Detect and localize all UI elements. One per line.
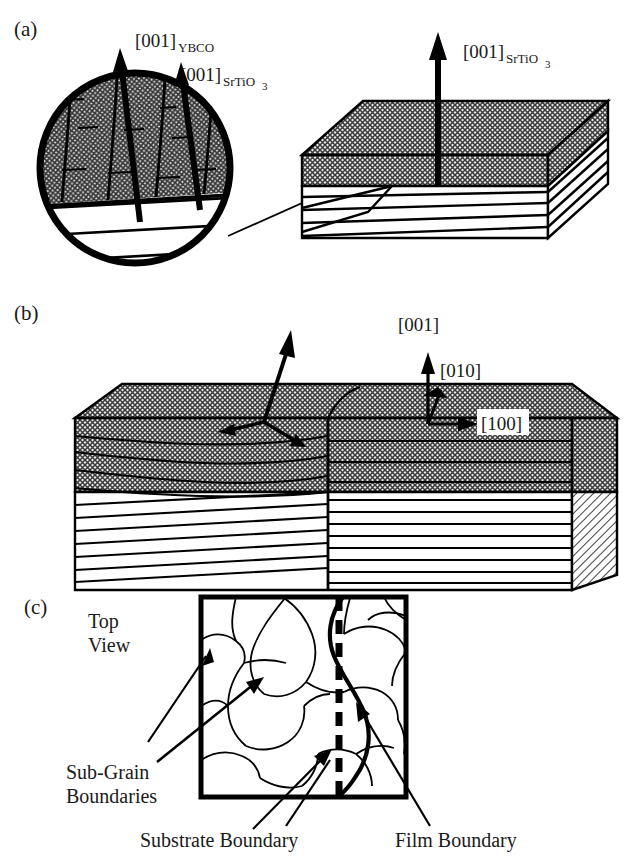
slab-a-film-front	[302, 155, 548, 186]
axis-001-label: [001]	[398, 314, 439, 335]
axis-100-label-group: [100]	[477, 409, 529, 435]
sub-grain-boundaries-label-line1: Sub-Grain	[66, 761, 149, 783]
top-view-label-line1: Top	[88, 610, 119, 633]
substrate-subscript-right-text: SrTiO	[506, 51, 538, 66]
figure-canvas: (a) [001] YBCO [001] SrTiO 3	[0, 0, 627, 856]
substrate-direction-right-text: [001]	[463, 41, 504, 62]
panel-c-letter: (c)	[24, 595, 47, 619]
axis-100-label: [100]	[481, 413, 522, 434]
slab-b-film-right	[572, 418, 617, 492]
ybco-direction-text: [001]	[135, 30, 176, 51]
ybco-subscript-text: YBCO	[178, 40, 214, 55]
panel-a-slab	[302, 101, 608, 238]
substrate-subscript-number: 3	[262, 80, 268, 92]
axis-010-label: [010]	[440, 360, 481, 381]
panel-a-letter: (a)	[14, 17, 37, 41]
slab-b-substrate-front	[75, 492, 572, 590]
substrate-subscript-right-number: 3	[545, 58, 551, 70]
film-boundary-label: Film Boundary	[395, 829, 517, 852]
sub-grain-boundaries-label-line2: Boundaries	[66, 785, 157, 807]
substrate-subscript-text: SrTiO	[223, 74, 255, 89]
slab-b-top-face	[75, 384, 617, 418]
top-view-label-line2: View	[88, 634, 131, 656]
substrate-boundary-label: Substrate Boundary	[140, 829, 298, 852]
panel-b-letter: (b)	[14, 301, 39, 325]
slab-b-substrate-right	[572, 492, 617, 590]
